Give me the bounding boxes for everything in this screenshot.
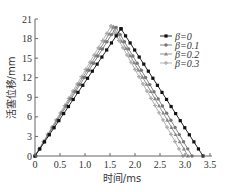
circle-marker-icon xyxy=(182,140,185,143)
triangle-marker-icon xyxy=(174,132,178,136)
circle-marker-icon xyxy=(131,54,134,57)
y-tick-label: 12 xyxy=(22,72,32,83)
x-tick-label: 1.0 xyxy=(79,159,92,170)
square-marker-icon xyxy=(57,119,60,122)
circle-marker-icon xyxy=(157,97,160,100)
square-marker-icon xyxy=(91,70,94,73)
star-marker-icon xyxy=(145,89,149,93)
square-marker-icon xyxy=(151,77,154,80)
star-marker-icon xyxy=(165,125,169,129)
square-marker-icon xyxy=(188,133,191,136)
circle-marker-icon xyxy=(178,133,181,136)
circle-marker-icon xyxy=(83,76,86,79)
star-marker-icon xyxy=(133,67,137,71)
chart: 00.51.01.52.02.53.03.5 036912151821 时间/m… xyxy=(0,0,230,192)
square-marker-icon xyxy=(119,27,122,30)
star-marker-icon xyxy=(149,96,153,100)
circle-marker-icon xyxy=(96,54,99,57)
legend-item: β=0.3 xyxy=(160,58,199,69)
triangle-marker-icon xyxy=(165,118,169,122)
y-tick-label: 0 xyxy=(27,151,32,162)
star-marker-icon xyxy=(164,61,168,65)
square-marker-icon xyxy=(53,126,56,129)
square-marker-icon xyxy=(142,63,145,66)
square-marker-icon xyxy=(43,140,46,143)
x-tick-label: 0.5 xyxy=(54,159,67,170)
circle-marker-icon xyxy=(123,40,126,43)
y-tick-label: 3 xyxy=(27,131,32,142)
square-marker-icon xyxy=(192,140,195,143)
triangle-marker-icon xyxy=(149,89,153,93)
triangle-marker-icon xyxy=(178,140,182,144)
x-tick-label: 2.0 xyxy=(129,159,142,170)
star-marker-icon xyxy=(153,104,157,108)
star-marker-icon xyxy=(161,118,165,122)
square-marker-icon xyxy=(179,119,182,122)
star-marker-icon xyxy=(173,140,177,144)
y-tick-label: 21 xyxy=(22,14,32,25)
square-marker-icon xyxy=(72,98,75,101)
square-marker-icon xyxy=(76,91,79,94)
y-tick-label: 15 xyxy=(22,53,32,64)
y-tick-label: 9 xyxy=(27,92,32,103)
square-marker-icon xyxy=(170,105,173,108)
star-marker-icon xyxy=(157,111,161,115)
triangle-marker-icon xyxy=(145,82,149,86)
star-marker-icon xyxy=(141,82,145,86)
y-axis-title: 活塞位移/mm xyxy=(5,57,17,120)
circle-marker-icon xyxy=(144,76,147,79)
square-marker-icon xyxy=(62,112,65,115)
square-marker-icon xyxy=(197,147,200,150)
circle-marker-icon xyxy=(140,69,143,72)
circle-marker-icon xyxy=(87,69,90,72)
triangle-marker-icon xyxy=(157,104,161,108)
series-β=0.1 xyxy=(33,26,193,158)
x-tick-label: 0 xyxy=(33,159,38,170)
square-marker-icon xyxy=(105,48,108,51)
square-marker-icon xyxy=(138,55,141,58)
legend: β=0β=0.1β=0.2β=0.3 xyxy=(160,31,199,69)
circle-marker-icon xyxy=(127,47,130,50)
square-marker-icon xyxy=(133,48,136,51)
triangle-marker-icon xyxy=(182,147,186,151)
y-ticks: 036912151821 xyxy=(22,14,38,162)
star-marker-icon xyxy=(177,147,181,151)
square-marker-icon xyxy=(110,41,113,44)
circle-marker-icon xyxy=(161,104,164,107)
circle-marker-icon xyxy=(135,61,138,64)
square-marker-icon xyxy=(164,34,167,37)
square-marker-icon xyxy=(160,91,163,94)
triangle-marker-icon xyxy=(161,111,165,115)
triangle-marker-icon xyxy=(153,97,157,101)
star-marker-icon xyxy=(125,53,129,57)
circle-marker-icon xyxy=(101,47,104,50)
circle-marker-icon xyxy=(148,83,151,86)
star-marker-icon xyxy=(137,75,141,79)
triangle-marker-icon xyxy=(169,125,173,129)
y-tick-label: 18 xyxy=(22,33,32,44)
circle-marker-icon xyxy=(173,126,176,129)
x-tick-label: 3.5 xyxy=(204,159,217,170)
triangle-marker-icon xyxy=(140,75,144,79)
square-marker-icon xyxy=(156,84,159,87)
square-marker-icon xyxy=(96,63,99,66)
x-tick-label: 1.5 xyxy=(104,159,117,170)
square-marker-icon xyxy=(183,126,186,129)
star-marker-icon xyxy=(129,60,133,64)
circle-marker-icon xyxy=(165,111,168,114)
x-tick-label: 3.0 xyxy=(179,159,192,170)
square-marker-icon xyxy=(165,98,168,101)
star-marker-icon xyxy=(169,132,173,136)
circle-marker-icon xyxy=(105,40,108,43)
square-marker-icon xyxy=(100,55,103,58)
square-marker-icon xyxy=(129,41,132,44)
circle-marker-icon xyxy=(110,33,113,36)
square-marker-icon xyxy=(147,70,150,73)
legend-label: β=0.3 xyxy=(174,58,199,69)
square-marker-icon xyxy=(48,133,51,136)
square-marker-icon xyxy=(124,34,127,37)
y-tick-label: 6 xyxy=(27,111,32,122)
circle-marker-icon xyxy=(152,90,155,93)
circle-marker-icon xyxy=(114,26,117,29)
circle-marker-icon xyxy=(92,61,95,64)
